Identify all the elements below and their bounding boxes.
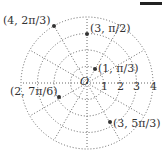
origin-label: O [80, 75, 89, 88]
polar-diagram: O 1 2 3 4 (4, 2π/3) (3, π/2) (1, π/3) (2… [0, 0, 166, 156]
point-label-4-2pi3: (4, 2π/3) [3, 14, 51, 27]
radial-label-4: 4 [150, 80, 157, 93]
point-2-7pi6 [57, 95, 61, 99]
point-label-1-pi3: (1, π/3) [98, 62, 139, 75]
point-label-3-5pi3: (3, 5π/3) [113, 117, 161, 130]
point-3-pi2 [85, 32, 89, 36]
point-label-3-pi2: (3, π/2) [90, 22, 131, 35]
corner-mark [140, 2, 162, 5]
radial-label-3: 3 [133, 80, 140, 93]
ray-150 [30, 50, 87, 83]
ray-240 [54, 83, 87, 140]
point-3-5pi3 [108, 120, 112, 124]
point-4-2pi3 [52, 24, 56, 28]
point-1-pi3 [93, 67, 97, 71]
radial-label-2: 2 [117, 80, 124, 93]
radial-label-1: 1 [101, 80, 108, 93]
point-label-2-7pi6: (2, 7π/6) [10, 85, 58, 98]
